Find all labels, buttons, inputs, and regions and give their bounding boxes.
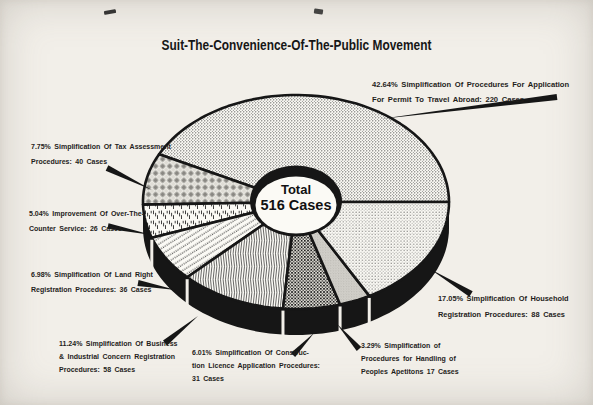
slice-label-line: 42.64% Simplification Of Procedures For … — [372, 77, 569, 92]
slice-label-travel-abroad: 42.64% Simplification Of Procedures For … — [372, 77, 569, 107]
slice-label-line: Procedures: 40 Cases — [31, 154, 171, 169]
slice-label-line: 11.24% Simplification Of Business — [59, 337, 177, 350]
slice-label-line: 6.98% Simplification Of Land Right — [31, 267, 153, 282]
slice-label-business-registration: 11.24% Simplification Of Business& Indus… — [59, 337, 177, 376]
slice-label-line: tion Licence Application Procedures: — [192, 359, 320, 372]
slice-label-line: Procedures: 58 Cases — [59, 363, 177, 376]
slice-label-line: 5.04% Improvement Of Over-The- — [29, 206, 144, 221]
slice-label-household-registration: 17.05% Simplification Of HouseholdRegist… — [438, 291, 569, 323]
slice-label-line: 31 Cases — [192, 372, 320, 385]
slice-label-line: Counter Service: 26 Cases — [29, 221, 144, 236]
slice-label-line: For Permit To Travel Abroad: 220 Cases — [372, 92, 569, 107]
pie-center-label: Total 516 Cases — [236, 183, 356, 214]
slice-label-line: 6.01% Simplification Of Construc- — [192, 346, 320, 359]
slice-label-line: 3.29% Simplification of — [361, 339, 459, 352]
slice-label-line: Registration Procedures: 88 Cases — [438, 307, 569, 323]
center-cases-text: 516 Cases — [236, 197, 356, 214]
slice-label-otc-service: 5.04% Improvement Of Over-The-Counter Se… — [29, 206, 144, 236]
slice-label-line: 17.05% Simplification Of Household — [438, 291, 569, 307]
slice-label-tax-assessment: 7.75% Simplification Of Tax AssessmentPr… — [31, 139, 171, 169]
slice-label-line: Procedures for Handling of — [361, 352, 459, 365]
slice-label-land-right: 6.98% Simplification Of Land RightRegist… — [31, 267, 153, 297]
slice-label-construction-licence: 6.01% Simplification Of Construc-tion Li… — [192, 346, 320, 385]
slice-label-line: Registration Procedures: 36 Cases — [31, 282, 153, 297]
center-total-text: Total — [236, 183, 356, 197]
slice-label-line: 7.75% Simplification Of Tax Assessment — [31, 139, 171, 154]
slice-label-line: Peoples Apetitons 17 Cases — [361, 365, 459, 378]
slice-label-line: & Industrial Concern Registration — [59, 350, 177, 363]
leader-arrow-tax-assessment — [106, 165, 152, 190]
scanned-chart-page: Suit-The-Convenience-Of-The-Public Movem… — [0, 0, 593, 405]
slice-label-peoples-petitions: 3.29% Simplification ofProcedures for Ha… — [361, 339, 459, 378]
scan-artifact-icon — [314, 8, 324, 14]
